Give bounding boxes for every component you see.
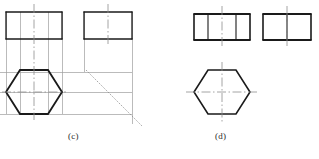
caption-c: (c)	[68, 131, 79, 141]
technical-drawing-canvas	[0, 0, 319, 159]
panel-d	[186, 6, 312, 122]
panel-c	[0, 4, 142, 126]
panel-c-projection-lines	[0, 12, 132, 124]
figure-sheet: (c) (d)	[0, 0, 319, 159]
caption-d: (d)	[215, 131, 226, 141]
miter-line-45-degree	[86, 70, 142, 126]
